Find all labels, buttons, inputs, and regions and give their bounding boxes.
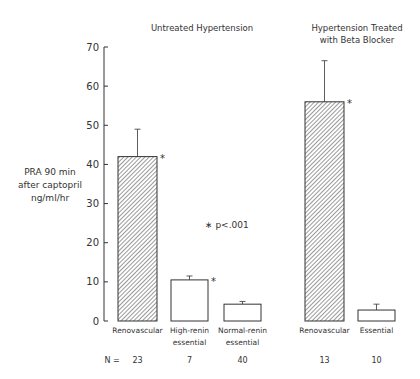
y-axis-label: PRA 90 minafter captoprilng/ml/hr: [18, 167, 82, 203]
category-label: Renovascular: [299, 326, 350, 335]
bars: ***: [118, 61, 395, 321]
y-label-line: after captopril: [18, 180, 82, 190]
significance-annotation: ∗ p<.001: [205, 220, 249, 230]
y-tick-label: 0: [93, 316, 99, 327]
n-value: 40: [237, 356, 247, 365]
x-category-labels: RenovascularHigh-reninessentialNormal-re…: [112, 326, 393, 347]
y-tick-label: 20: [86, 237, 99, 248]
bar: [171, 280, 208, 321]
bar: [305, 102, 344, 321]
group-titles: Untreated HypertensionHypertension Treat…: [151, 23, 403, 45]
bar: [118, 157, 157, 321]
group-title: with Beta Blocker: [320, 35, 395, 45]
y-label-line: PRA 90 min: [24, 167, 76, 177]
n-value: 10: [371, 356, 381, 365]
y-tick-label: 40: [86, 159, 99, 170]
y-tick-label: 10: [86, 276, 99, 287]
y-tick-label: 60: [86, 81, 99, 92]
significance-marker: *: [211, 276, 216, 287]
y-axis: 010203040506070: [86, 42, 108, 327]
significance-marker: *: [347, 98, 352, 109]
y-label-line: ng/ml/hr: [31, 193, 69, 203]
category-label: Normal-renin: [218, 326, 267, 335]
n-value: 23: [132, 356, 142, 365]
bar-chart: Untreated HypertensionHypertension Treat…: [0, 0, 420, 379]
category-label: essential: [226, 338, 260, 347]
n-value: 7: [187, 356, 192, 365]
category-label: Renovascular: [112, 326, 163, 335]
category-label: essential: [173, 338, 207, 347]
significance-marker: *: [160, 153, 165, 164]
n-value: 13: [319, 356, 329, 365]
y-tick-label: 70: [86, 42, 99, 53]
category-label: High-renin: [170, 326, 209, 335]
sample-size-row: 237401310N =: [104, 356, 381, 365]
y-tick-label: 50: [86, 120, 99, 131]
group-title: Untreated Hypertension: [151, 23, 253, 33]
y-tick-label: 30: [86, 198, 99, 209]
bar: [224, 304, 261, 321]
bar: [358, 310, 395, 321]
n-label: N =: [104, 356, 119, 365]
category-label: Essential: [360, 326, 394, 335]
group-title: Hypertension Treated: [311, 23, 402, 33]
